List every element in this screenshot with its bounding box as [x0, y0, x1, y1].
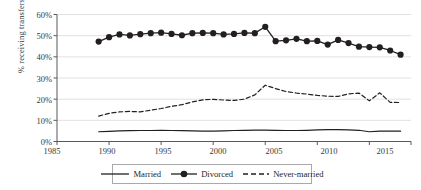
data-point-marker — [220, 31, 226, 37]
plot-area — [0, 0, 421, 190]
data-point-marker — [210, 30, 216, 36]
data-point-marker — [137, 31, 143, 37]
data-point-marker — [252, 30, 258, 36]
data-point-marker — [116, 31, 122, 37]
chart-legend: Married Divorced Never-married — [112, 164, 312, 184]
data-point-marker — [168, 31, 174, 37]
data-point-marker — [366, 44, 372, 50]
data-point-marker — [241, 30, 247, 36]
data-point-marker — [387, 47, 393, 53]
legend-item-never-married: Never-married — [242, 169, 323, 179]
data-point-marker — [106, 34, 112, 40]
data-point-marker — [189, 30, 195, 36]
data-point-marker — [356, 44, 362, 50]
data-point-marker — [293, 36, 299, 42]
chart-container: % receiving transfers 60% 50% 40% 30% 20… — [0, 0, 421, 190]
series-line-divorced — [99, 27, 401, 55]
legend-label: Never-married — [273, 169, 323, 179]
data-point-marker — [345, 40, 351, 46]
gridlines — [57, 15, 411, 121]
data-point-marker — [397, 52, 403, 58]
data-point-marker — [127, 32, 133, 38]
data-point-marker — [158, 30, 164, 36]
legend-swatch-never-married-icon — [242, 169, 270, 179]
data-point-marker — [273, 38, 279, 44]
legend-swatch-divorced-icon — [170, 169, 198, 179]
data-point-marker — [283, 37, 289, 43]
legend-label: Married — [133, 169, 161, 179]
data-point-marker — [262, 24, 268, 30]
legend-item-divorced: Divorced — [170, 169, 233, 179]
series-line-married — [99, 130, 401, 132]
data-point-marker — [304, 38, 310, 44]
data-point-marker — [96, 38, 102, 44]
data-point-marker — [377, 44, 383, 50]
data-point-marker — [200, 30, 206, 36]
data-point-marker — [314, 38, 320, 44]
legend-swatch-married-icon — [100, 169, 130, 179]
data-point-marker — [325, 41, 331, 47]
series-line-never-married — [99, 85, 401, 116]
data-point-marker — [335, 37, 341, 43]
legend-label: Divorced — [201, 169, 233, 179]
legend-item-married: Married — [100, 169, 161, 179]
data-point-marker — [148, 30, 154, 36]
data-point-marker — [231, 31, 237, 37]
data-point-marker — [179, 32, 185, 38]
